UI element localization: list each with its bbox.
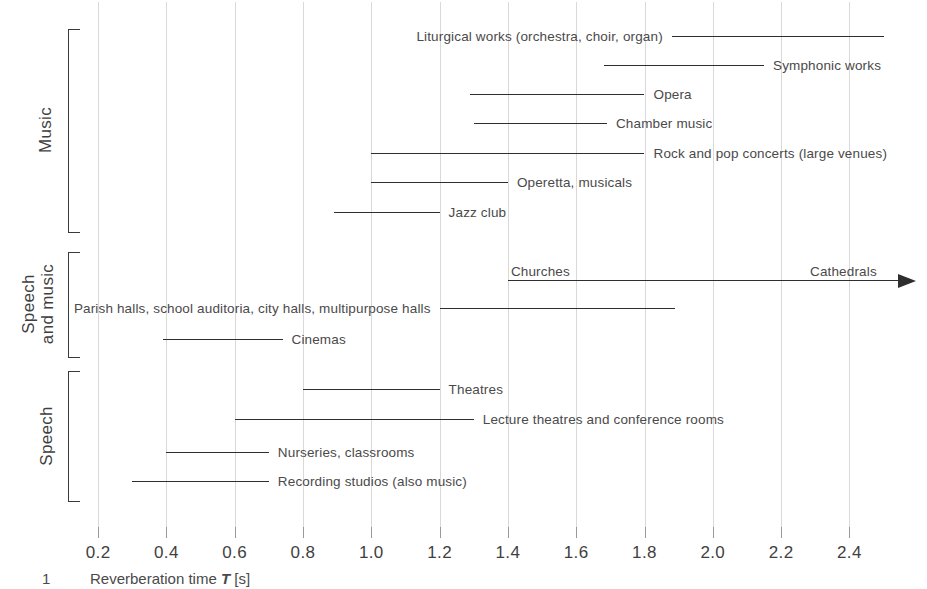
range-label: Rock and pop concerts (large venues) [654, 147, 888, 161]
range-label: Cathedrals [810, 265, 877, 279]
range-label: Churches [511, 265, 570, 279]
x-tick-mark [303, 527, 304, 538]
group-label: Music [36, 107, 56, 153]
gridline [781, 2, 782, 527]
gridline [166, 2, 167, 527]
range-label: Chamber music [616, 117, 712, 131]
caption-text-before: Reverberation time [90, 570, 221, 587]
range-bar [440, 308, 676, 309]
gridline [235, 2, 236, 527]
range-label: Opera [654, 88, 692, 102]
range-label: Nurseries, classrooms [278, 446, 415, 460]
x-tick-label: 0.4 [154, 543, 179, 563]
range-label: Symphonic works [773, 59, 881, 73]
x-tick-label: 1.6 [564, 543, 589, 563]
reverberation-time-chart: 0.20.40.60.81.01.21.41.61.82.02.22.4Litu… [0, 0, 927, 589]
x-tick-label: 0.8 [291, 543, 316, 563]
gridline [98, 2, 99, 527]
range-label: Liturgical works (orchestra, choir, orga… [416, 30, 662, 44]
x-tick-mark [98, 527, 99, 538]
caption-number: 1 [42, 570, 90, 587]
range-label: Lecture theatres and conference rooms [483, 413, 724, 427]
arrow-head-icon [898, 274, 916, 288]
figure-caption: 1Reverberation time T [s] [42, 570, 250, 587]
range-bar [508, 280, 898, 281]
range-bar [132, 481, 269, 482]
range-bar [470, 94, 644, 95]
gridline [576, 2, 577, 527]
range-bar [672, 36, 884, 37]
x-tick-label: 1.0 [359, 543, 384, 563]
range-label: Parish halls, school auditoria, city hal… [74, 302, 431, 316]
range-bar [604, 65, 765, 66]
range-bar [163, 339, 283, 340]
x-tick-mark [576, 527, 577, 538]
x-tick-mark [371, 527, 372, 538]
group-label: Speechand music [19, 264, 57, 344]
x-tick-mark [713, 527, 714, 538]
x-tick-mark [781, 527, 782, 538]
range-label: Jazz club [449, 206, 507, 220]
x-tick-label: 2.2 [769, 543, 794, 563]
group-label-line: and music [38, 264, 57, 344]
range-bar [303, 389, 440, 390]
gridline [508, 2, 509, 527]
group-bracket [68, 371, 80, 502]
x-tick-mark [645, 527, 646, 538]
x-tick-mark [166, 527, 167, 538]
x-tick-label: 2.0 [700, 543, 725, 563]
caption-symbol: T [221, 570, 230, 587]
x-tick-label: 1.8 [632, 543, 657, 563]
range-bar [474, 123, 607, 124]
range-label: Recording studios (also music) [278, 475, 467, 489]
plot-area: 0.20.40.60.81.01.21.41.61.82.02.22.4Litu… [0, 0, 927, 589]
x-tick-mark [235, 527, 236, 538]
x-tick-label: 0.2 [86, 543, 111, 563]
gridline [645, 2, 646, 527]
range-bar [371, 153, 644, 154]
range-label: Cinemas [292, 333, 346, 347]
x-tick-label: 1.2 [427, 543, 452, 563]
x-tick-mark [849, 527, 850, 538]
x-tick-label: 1.4 [495, 543, 520, 563]
caption-text-after: [s] [230, 570, 250, 587]
range-label: Operetta, musicals [517, 176, 632, 190]
range-bar [235, 419, 474, 420]
gridline [440, 2, 441, 527]
x-tick-mark [508, 527, 509, 538]
x-tick-label: 2.4 [837, 543, 862, 563]
x-tick-label: 0.6 [222, 543, 247, 563]
group-bracket [68, 252, 80, 358]
range-bar [371, 182, 508, 183]
range-bar [334, 212, 440, 213]
range-bar [166, 452, 268, 453]
group-bracket [68, 29, 80, 233]
gridline [713, 2, 714, 527]
range-label: Theatres [449, 383, 503, 397]
group-label-line: Speech [19, 264, 38, 344]
group-label: Speech [36, 406, 56, 465]
x-tick-mark [440, 527, 441, 538]
